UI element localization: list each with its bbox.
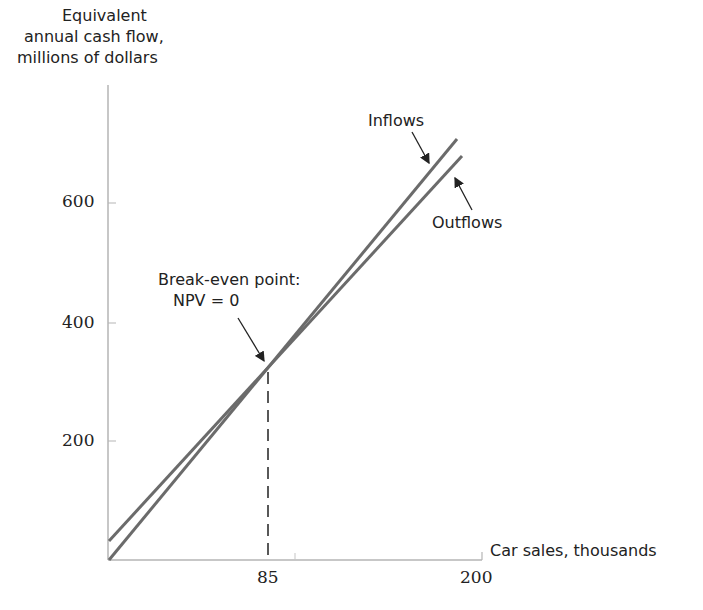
y-tick-600: 600	[62, 191, 94, 211]
outflows-line	[109, 156, 462, 541]
x-tick-85: 85	[257, 567, 279, 587]
x-tick-200: 200	[460, 567, 492, 587]
inflows-label: Inflows	[368, 111, 424, 130]
break-even-label-line2: NPV = 0	[173, 291, 239, 310]
y-tick-400: 400	[62, 312, 94, 332]
outflows-arrow	[455, 178, 472, 210]
x-axis-title: Car sales, thousands	[490, 541, 657, 560]
break-even-label-line1: Break-even point:	[158, 270, 300, 289]
break-even-arrow	[238, 318, 264, 361]
outflows-label: Outflows	[432, 213, 502, 232]
y-tick-200: 200	[62, 430, 94, 450]
chart-plot	[0, 0, 703, 610]
inflows-arrow	[412, 132, 429, 163]
